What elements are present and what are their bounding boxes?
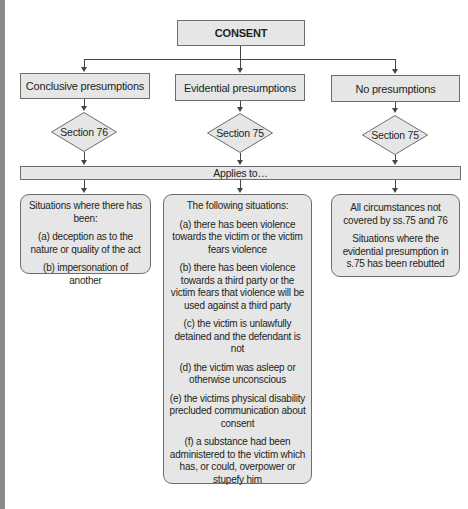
evidential-presumptions-node: Evidential presumptions xyxy=(175,74,305,101)
no-presumption-item: Situations where the evidential presumpt… xyxy=(338,233,453,271)
arrow-head-icon xyxy=(392,108,398,113)
arrow-head-icon xyxy=(81,67,87,72)
evidential-situations-box: The following situations: (a) there has … xyxy=(163,194,312,484)
arrow-head-icon xyxy=(392,188,398,193)
arrow-head-icon xyxy=(81,106,87,111)
arrow-head-icon xyxy=(237,160,243,165)
arrow-head-icon xyxy=(237,188,243,193)
connector-mid-down xyxy=(240,59,241,68)
conclusive-presumptions-label: Conclusive presumptions xyxy=(26,80,144,92)
section-76-decision: Section 76 xyxy=(51,112,117,152)
evidential-item: (f) a substance had been administered to… xyxy=(168,436,307,486)
evidential-item: (c) the victim is unlawfully detained an… xyxy=(168,318,307,356)
evidential-item: (d) the victim was asleep or otherwise u… xyxy=(168,362,307,387)
applies-to-label: Applies to… xyxy=(213,167,267,179)
arrow-head-icon xyxy=(237,107,243,112)
evidential-heading: The following situations: xyxy=(168,200,307,213)
conclusive-item: (a) deception as to the nature or qualit… xyxy=(27,231,144,256)
section-75-decision-none: Section 75 xyxy=(362,115,428,155)
evidential-item: (e) the victims physical disability prec… xyxy=(168,393,307,431)
evidential-presumptions-label: Evidential presumptions xyxy=(184,82,296,94)
page-edge-strip xyxy=(0,0,5,509)
arrow-head-icon xyxy=(392,69,398,74)
section-75-label: Section 75 xyxy=(362,115,428,155)
arrow-head-icon xyxy=(392,160,398,165)
conclusive-heading: Situations where there has been: xyxy=(27,200,144,225)
arrow-head-icon xyxy=(81,188,87,193)
connector-root-down xyxy=(240,46,241,59)
evidential-item: (a) there has been violence towards the … xyxy=(168,219,307,257)
no-presumption-heading: All circumstances not covered by ss.75 a… xyxy=(338,202,453,227)
conclusive-item: (b) impersonation of another xyxy=(27,262,144,287)
applies-to-bar: Applies to… xyxy=(20,166,461,180)
arrow-head-icon xyxy=(81,160,87,165)
conclusive-presumptions-node: Conclusive presumptions xyxy=(20,73,150,99)
section-76-label: Section 76 xyxy=(51,112,117,152)
section-75-label: Section 75 xyxy=(207,113,273,153)
consent-label: CONSENT xyxy=(215,27,267,39)
no-presumption-situations-box: All circumstances not covered by ss.75 a… xyxy=(331,194,460,277)
connector-right-down xyxy=(395,59,396,69)
conclusive-situations-box: Situations where there has been: (a) dec… xyxy=(20,194,151,274)
no-presumptions-label: No presumptions xyxy=(355,83,435,95)
no-presumptions-node: No presumptions xyxy=(331,75,460,102)
consent-node: CONSENT xyxy=(177,20,305,46)
section-75-decision-evidential: Section 75 xyxy=(207,113,273,153)
arrow-head-icon xyxy=(237,68,243,73)
evidential-item: (b) there has been violence towards a th… xyxy=(168,262,307,312)
